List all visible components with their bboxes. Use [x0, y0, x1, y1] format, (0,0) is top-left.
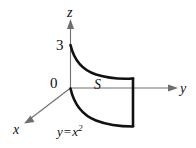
z-axis-arrowhead [67, 19, 74, 29]
figure-canvas [0, 0, 196, 148]
equation-operator: = [63, 124, 72, 139]
equation-exponent: 2 [78, 123, 83, 133]
y-axis-label: y [180, 82, 186, 96]
y-axis-arrowhead [168, 85, 178, 92]
x-axis [24, 88, 71, 124]
math-figure: z y x 3 0 S y=x2 [0, 0, 196, 148]
x-axis-label: x [13, 123, 19, 137]
origin-label: 0 [50, 76, 58, 91]
surface-region [71, 45, 134, 127]
equation-lhs: y [57, 124, 63, 139]
y-axis [71, 85, 179, 92]
x-axis-line [30, 88, 71, 119]
lower-boundary-curve-parabola [71, 89, 134, 127]
z-axis-label: z [67, 6, 72, 20]
upper-boundary-curve [71, 45, 134, 79]
z-tick-label-3: 3 [56, 38, 64, 53]
curve-equation-label: y=x2 [57, 124, 82, 138]
surface-label-s: S [94, 78, 101, 92]
